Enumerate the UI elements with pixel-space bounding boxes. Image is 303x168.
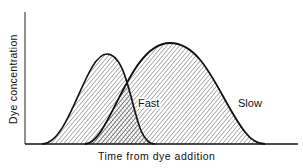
- y-axis-label: Dye concentration: [7, 34, 19, 124]
- slow-label: Slow: [238, 97, 262, 109]
- fast-label: Fast: [138, 97, 159, 109]
- dye-chart: Fast Slow Time from dye addition Dye con…: [0, 0, 303, 168]
- x-axis-label: Time from dye addition: [98, 150, 215, 162]
